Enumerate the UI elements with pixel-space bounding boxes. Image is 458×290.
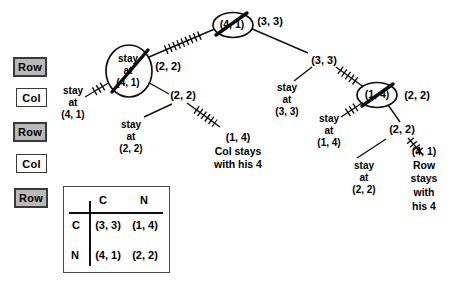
left-alt-payoff-label: (2, 2)	[155, 60, 181, 73]
turn-box-col-1: Col	[16, 88, 47, 107]
matrix-row-header-c: C	[72, 219, 80, 231]
turn-box-row-2: Row	[13, 122, 47, 142]
turn-box-row-1: Row	[13, 57, 47, 77]
matrix-cell-cn: (1, 4)	[132, 219, 158, 231]
leaf-row-stays-label: (4, 1) Row stays with his 4	[407, 145, 441, 213]
turn-box-label: Col	[22, 158, 40, 170]
branch-node22l-to-stay22	[144, 104, 172, 117]
leaf-col-stays-label: (1, 4) Col stays with his 4	[214, 131, 262, 172]
game-tree-figure: Row Col Row Col Row (4, 1) (3, 3) stay a…	[0, 0, 458, 290]
matrix-row-header-n: N	[71, 249, 79, 261]
matrix-cell-nn: (2, 2)	[132, 249, 158, 261]
branch-node33-to-stay33	[294, 67, 312, 81]
turn-box-label: Row	[18, 61, 42, 73]
branch-root-to-left-oval	[142, 28, 217, 60]
right-node-33-label: (3, 3)	[311, 54, 337, 67]
root-alt-payoff-label: (3, 3)	[257, 15, 283, 28]
matrix-col-header-n: N	[140, 194, 148, 206]
payoff-matrix: C N C (3, 3) (1, 4) N (4, 1) (2, 2)	[63, 186, 170, 273]
leaf-stay-14-label: stay at (1, 4)	[317, 113, 340, 150]
right-oval-label: (1, 4)	[365, 88, 390, 102]
matrix-col-header-c: C	[99, 194, 107, 206]
left-oval-label: stay at (4, 1)	[116, 53, 139, 90]
matrix-horizontal-rule	[69, 212, 163, 214]
right-alt-payoff-label: (2, 2)	[404, 89, 430, 102]
turn-box-label: Col	[22, 92, 40, 104]
turn-box-row-3: Row	[14, 188, 48, 208]
leaf-stay-22-left-label: stay at (2, 2)	[119, 119, 142, 156]
turn-box-label: Row	[18, 126, 42, 138]
leaf-stay-41-label: stay at (4, 1)	[61, 85, 84, 122]
turn-box-label: Row	[19, 192, 43, 204]
leaf-stay-33-label: stay at (3, 3)	[275, 82, 298, 119]
matrix-cell-nc: (4, 1)	[95, 249, 121, 261]
turn-box-col-2: Col	[16, 154, 47, 173]
matrix-vertical-rule	[89, 201, 91, 266]
matrix-cell-cc: (3, 3)	[95, 219, 121, 231]
leaf-stay-22-right-label: stay at (2, 2)	[352, 160, 375, 197]
branch-root-to-node33	[250, 28, 308, 53]
right-node-22-label: (2, 2)	[389, 123, 415, 136]
root-payoff-label: (4, 1)	[220, 18, 245, 32]
branch-node22r-to-stay22	[357, 139, 386, 158]
branch-leftoval-to-stay41	[85, 82, 110, 97]
left-node-22-label: (2, 2)	[170, 89, 196, 102]
